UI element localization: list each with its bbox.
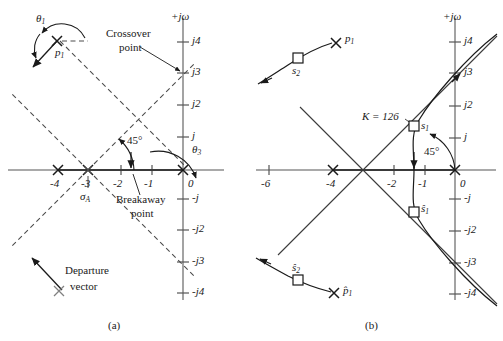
panel-a-label-breakaway-line1: Breakaway xyxy=(116,194,165,205)
panel-b-label-s2: s2 xyxy=(292,65,300,77)
panel-a-label-crossover-line2: point xyxy=(119,42,142,53)
panel-b-tick-neg-j2: -j2 xyxy=(464,224,476,235)
panel-a-tick-neg-j4: -j4 xyxy=(192,286,204,297)
panel-a-departure-arrow xyxy=(33,41,57,67)
panel-a-tick-neg-j2: -j2 xyxy=(192,223,204,234)
panel-b-label-45deg: 45° xyxy=(424,146,439,157)
panel-b-tick-j1: j xyxy=(464,131,467,142)
panel-a-label-sigma-a: σA xyxy=(80,191,90,203)
panel-b-tick-neg-j3: -j3 xyxy=(464,256,476,267)
marker-s1-hat xyxy=(409,207,419,217)
panel-a-tick-j1: j xyxy=(192,130,195,141)
panel-a-tick-j4: j4 xyxy=(192,35,201,46)
panel-b-axes xyxy=(256,18,496,300)
marker-s1 xyxy=(409,121,419,131)
panel-b-tick-neg6: -6 xyxy=(261,178,270,189)
panel-a-legend-vector xyxy=(32,258,64,296)
panel-a-legend-line2: vector xyxy=(70,281,97,292)
panel-a-legend-line1: Departure xyxy=(65,265,109,276)
panel-b-caption: (b) xyxy=(365,320,378,331)
panel-b-label-gain: K = 126 xyxy=(362,111,399,122)
panel-b-tick-neg4: -4 xyxy=(326,178,335,189)
panel-b-tick-j3: j3 xyxy=(464,66,473,77)
panel-b-label-p1-hat: p̂1 xyxy=(343,285,352,297)
panel-a-label-p1: p1 xyxy=(55,47,64,59)
panel-a-dashed-loci xyxy=(12,41,194,276)
panel-a-tick-neg-j3: -j3 xyxy=(192,255,204,266)
panel-a-tick-j3: j3 xyxy=(192,66,201,77)
marker-s2-hat xyxy=(293,275,303,285)
panel-b-tick-j2: j2 xyxy=(464,99,473,110)
panel-a-tick-neg2: -2 xyxy=(113,178,122,189)
panel-a-label-breakaway-line2: point xyxy=(131,208,154,219)
panel-b-tick-0: 0 xyxy=(460,178,466,189)
panel-b-label-p1: p1 xyxy=(345,33,354,45)
marker-s2 xyxy=(293,53,303,63)
panel-b-label-s2-hat: ŝ2 xyxy=(292,262,300,274)
panel-a-tick-j2: j2 xyxy=(192,98,201,109)
panel-a-angle-theta3-arc xyxy=(150,151,196,178)
panel-b-label-s1: s1 xyxy=(421,120,429,132)
panel-a-imag-axis-label: +jω xyxy=(171,11,189,22)
panel-a-caption: (a) xyxy=(108,320,120,331)
panel-b-tick-neg-j1: -j xyxy=(464,192,471,203)
panel-b-tick-neg-j4: -j4 xyxy=(464,287,476,298)
panel-a-label-theta3: θ3 xyxy=(192,144,201,156)
root-locus-figure: +jω j4 j3 j2 j -j -j2 -j3 -j4 -4 -3 -2 -… xyxy=(0,0,503,341)
panel-b-imag-axis-label: +jω xyxy=(443,11,461,22)
panel-b-tick-neg2: -2 xyxy=(387,178,396,189)
panel-a-crossover-pointer xyxy=(140,47,180,71)
panel-a-pole-markers xyxy=(52,36,188,175)
panel-a-tick-0: 0 xyxy=(188,178,194,189)
panel-a-tick-neg4: -4 xyxy=(50,178,59,189)
panel-a-label-crossover-line1: Crossover xyxy=(106,28,151,39)
panel-b-tick-j4: j4 xyxy=(464,35,473,46)
panel-b-tick-neg1: -1 xyxy=(418,178,427,189)
panel-a-label-theta1: θ1 xyxy=(36,13,45,25)
panel-b-label-s1-hat: ŝ1 xyxy=(421,203,429,215)
panel-a-tick-neg-j1: -j xyxy=(192,192,199,203)
panel-a-label-45deg: 45° xyxy=(127,135,142,146)
panel-a-tick-neg3: -3 xyxy=(81,178,90,189)
panel-a-tick-neg1: -1 xyxy=(144,178,153,189)
